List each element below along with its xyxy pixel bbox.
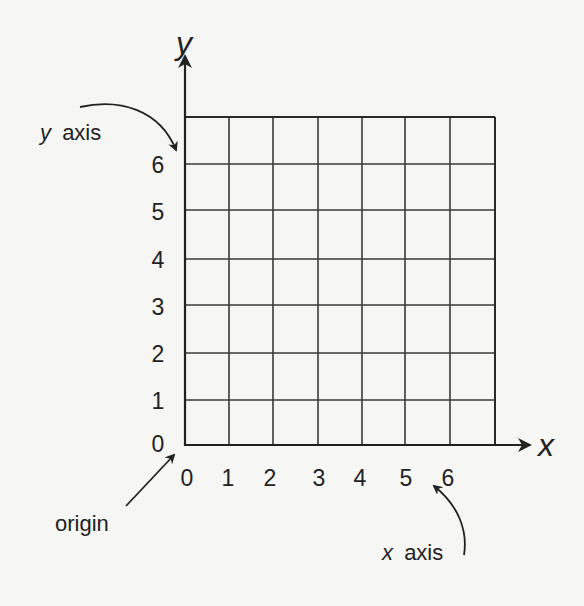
y-axis-callout-text: axis [62, 120, 101, 145]
x-axis-callout-var: x [381, 540, 394, 565]
x-tick-label: 0 [181, 465, 194, 491]
origin-callout-arrow [126, 455, 174, 506]
y-tick-label: 2 [152, 341, 165, 367]
y-axis-callout-var: y [38, 120, 53, 145]
origin-callout: origin [55, 455, 174, 536]
y-tick-labels: 6 5 4 3 2 1 0 [152, 152, 165, 457]
x-tick-label: 4 [354, 465, 367, 491]
origin-callout-label: origin [55, 511, 109, 536]
grid [185, 117, 495, 445]
x-axis-callout: x axis [381, 486, 465, 565]
y-axis-callout-label: y axis [38, 120, 101, 145]
y-tick-label: 3 [152, 294, 165, 320]
y-axis-variable: y [174, 25, 194, 61]
y-tick-label: 6 [152, 152, 165, 178]
x-tick-label: 1 [222, 465, 235, 491]
coordinate-grid-diagram: y x 6 5 4 3 2 1 0 0 1 2 3 4 5 6 y axis x… [0, 0, 584, 606]
x-axis-callout-label: x axis [381, 540, 443, 565]
y-tick-label: 4 [152, 247, 165, 273]
y-tick-label: 0 [152, 431, 165, 457]
x-tick-label: 3 [313, 465, 326, 491]
x-tick-labels: 0 1 2 3 4 5 6 [181, 465, 455, 491]
x-axis-variable: x [536, 427, 555, 463]
y-tick-label: 5 [152, 199, 165, 225]
x-axis-callout-text: axis [404, 540, 443, 565]
x-tick-label: 5 [400, 465, 413, 491]
y-axis-callout: y axis [38, 104, 176, 150]
x-tick-label: 2 [264, 465, 277, 491]
x-tick-label: 6 [442, 465, 455, 491]
y-tick-label: 1 [152, 388, 165, 414]
